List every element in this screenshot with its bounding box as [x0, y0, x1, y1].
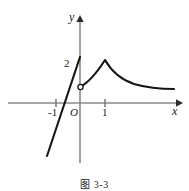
coordinate-plot: y x O -1 1 2 — [0, 0, 189, 191]
origin-label: O — [70, 106, 78, 118]
tick-label-x-one: 1 — [102, 106, 108, 118]
math-figure: y x O -1 1 2 图 3-3 — [0, 0, 189, 191]
x-axis-label: x — [171, 104, 178, 118]
open-circle-endpoint — [78, 84, 83, 89]
tick-label-y-two: 2 — [64, 57, 70, 69]
y-axis-label: y — [68, 10, 75, 24]
tick-label-x-negative-one: -1 — [48, 106, 57, 118]
curve-right-decay-branch — [80, 60, 174, 89]
figure-caption: 图 3-3 — [0, 179, 189, 191]
y-axis-arrowhead — [76, 15, 83, 22]
